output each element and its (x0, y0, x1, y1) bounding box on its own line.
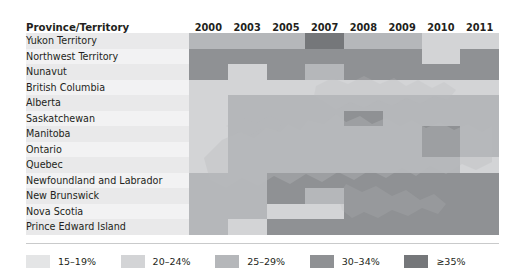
heatmap-cell (228, 80, 267, 96)
column-header-year-2010: 2010 (422, 14, 461, 33)
heatmap-cell (344, 173, 383, 189)
heatmap-cell (383, 33, 422, 49)
heatmap-cell (305, 157, 344, 173)
header-row: Province/Territory 2000 2003 2005 2007 2… (26, 14, 499, 33)
table-row: Nunavut (26, 64, 499, 80)
table-row: Nova Scotia (26, 204, 499, 220)
heatmap-cell (422, 204, 461, 220)
heatmap-cell (383, 111, 422, 127)
column-header-year-2007: 2007 (305, 14, 344, 33)
legend-item: 30–34% (310, 255, 405, 268)
heatmap-cell (383, 49, 422, 65)
heatmap-cell (228, 64, 267, 80)
heatmap-cell (422, 64, 461, 80)
heatmap-cell (422, 157, 461, 173)
table-row: Prince Edward Island (26, 219, 499, 235)
heatmap-cell (460, 142, 499, 158)
heatmap-cell (460, 80, 499, 96)
row-label: Manitoba (26, 126, 189, 142)
heatmap-cell (460, 126, 499, 142)
heatmap-cell (305, 95, 344, 111)
heatmap-cell (305, 33, 344, 49)
heatmap-cell (228, 95, 267, 111)
heatmap-cell (344, 219, 383, 235)
legend-label: 15–19% (58, 256, 96, 267)
table-row: Ontario (26, 142, 499, 158)
column-header-year-2008: 2008 (344, 14, 383, 33)
heatmap-cell (344, 142, 383, 158)
heatmap-cell (344, 95, 383, 111)
legend-swatch (26, 255, 50, 268)
legend-label: 25–29% (247, 256, 285, 267)
heatmap-cell (267, 142, 306, 158)
heatmap-cell (422, 80, 461, 96)
heatmap-cell (460, 33, 499, 49)
row-label: Yukon Territory (26, 33, 189, 49)
legend-swatch (215, 255, 239, 268)
heatmap-cell (189, 188, 228, 204)
legend-label: 20–24% (153, 256, 191, 267)
heatmap-cell (422, 126, 461, 142)
heatmap-cell (383, 219, 422, 235)
heatmap-cell (189, 157, 228, 173)
heatmap-cell (383, 80, 422, 96)
heatmap-cell (305, 126, 344, 142)
heatmap-cell (228, 173, 267, 189)
heatmap-cell (267, 157, 306, 173)
heatmap-cell (460, 64, 499, 80)
heatmap-cell (228, 142, 267, 158)
table-row: New Brunswick (26, 188, 499, 204)
heatmap-cell (344, 111, 383, 127)
heatmap-cell (267, 49, 306, 65)
heatmap-cell (422, 49, 461, 65)
heatmap-cell (305, 219, 344, 235)
heatmap-cell (189, 173, 228, 189)
column-header-year-2005: 2005 (267, 14, 306, 33)
row-label: Newfoundland and Labrador (26, 173, 189, 189)
heatmap-cell (383, 188, 422, 204)
heatmap-cell (460, 219, 499, 235)
heatmap-cell (189, 219, 228, 235)
column-header-year-2009: 2009 (383, 14, 422, 33)
table-row: Newfoundland and Labrador (26, 173, 499, 189)
heatmap-cell (383, 95, 422, 111)
heatmap-cell (305, 188, 344, 204)
heatmap-cell (267, 64, 306, 80)
row-label: British Columbia (26, 80, 189, 96)
column-header-year-2000: 2000 (189, 14, 228, 33)
heatmap-cell (189, 64, 228, 80)
heatmap-cell (305, 173, 344, 189)
heatmap-cell (460, 157, 499, 173)
heatmap-cell (305, 111, 344, 127)
heatmap-cell (305, 204, 344, 220)
row-label: Quebec (26, 157, 189, 173)
heatmap-cell (422, 33, 461, 49)
row-label: Ontario (26, 142, 189, 158)
legend-swatch (310, 255, 334, 268)
table-header: Province/Territory 2000 2003 2005 2007 2… (26, 14, 499, 33)
column-header-year-2011: 2011 (460, 14, 499, 33)
heatmap-cell (267, 95, 306, 111)
heatmap-cell (422, 219, 461, 235)
table-row: Manitoba (26, 126, 499, 142)
heatmap-cell (344, 126, 383, 142)
heatmap-cell (460, 173, 499, 189)
row-label: Prince Edward Island (26, 219, 189, 235)
legend: 15–19%20–24%25–29%30–34%≥35% (26, 252, 499, 270)
heatmap-cell (344, 188, 383, 204)
heatmap-cell (383, 173, 422, 189)
heatmap-cell (228, 111, 267, 127)
heatmap-cell (228, 219, 267, 235)
table-row: Alberta (26, 95, 499, 111)
heatmap-cell (228, 204, 267, 220)
heatmap-cell (189, 126, 228, 142)
heatmap-cell (305, 142, 344, 158)
heatmap-cell (344, 157, 383, 173)
row-label: Nova Scotia (26, 204, 189, 220)
heatmap-cell (228, 49, 267, 65)
heatmap-cell (189, 33, 228, 49)
column-header-province: Province/Territory (26, 14, 189, 33)
legend-item: 25–29% (215, 255, 310, 268)
heatmap-cell (422, 95, 461, 111)
row-label: Alberta (26, 95, 189, 111)
